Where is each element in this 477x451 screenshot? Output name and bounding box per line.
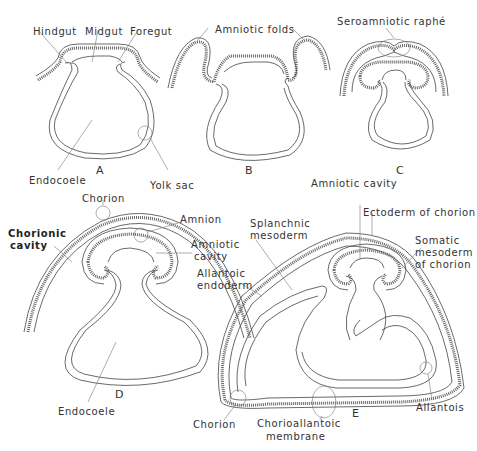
panel-label-c: C: [396, 165, 404, 176]
panel-label-b: B: [245, 165, 253, 176]
label-midgut: Midgut: [85, 26, 123, 37]
label-allantoic-endoderm-line1: Allantoic: [197, 268, 246, 279]
label-amniotic-cavity-e: Amniotic cavity: [311, 178, 397, 189]
label-chorion-d: Chorion: [82, 193, 125, 204]
label-somatic-mesoderm-line3: of chorion: [415, 259, 471, 270]
label-amniotic-cavity-d-line2: cavity: [194, 251, 228, 262]
label-ectoderm-of-chorion: Ectoderm of chorion: [363, 207, 476, 218]
label-chorioallantoic-membrane-line2: membrane: [266, 431, 326, 442]
label-chorionic-cavity-line2: cavity: [10, 240, 48, 251]
label-foregut: Foregut: [130, 26, 172, 37]
panel-a-drawing: [36, 30, 168, 170]
label-endocoele-d: Endocoele: [58, 406, 115, 417]
label-chorion-e: Chorion: [193, 419, 236, 430]
label-somatic-mesoderm-line2: mesoderm: [415, 247, 473, 258]
panel-b-drawing: [168, 28, 330, 160]
label-allantois: Allantois: [416, 402, 464, 413]
label-amniotic-folds: Amniotic folds: [215, 24, 295, 35]
label-amnion: Amnion: [180, 214, 222, 225]
diagram-drawing: [0, 0, 477, 451]
label-splanchnic-mesoderm-line1: Splanchnic: [250, 218, 310, 229]
label-yolk-sac: Yolk sac: [150, 180, 194, 191]
label-hindgut: Hindgut: [33, 26, 77, 37]
label-allantoic-endoderm-line2: endoderm: [197, 280, 253, 291]
label-endocoele-a: Endocoele: [29, 175, 86, 186]
label-seroamniotic-raphe: Seroamniotic raphé: [337, 16, 446, 27]
panel-label-d: D: [115, 389, 124, 400]
label-chorioallantoic-membrane-line1: Chorioallantoic: [257, 418, 341, 429]
label-splanchnic-mesoderm-line2: mesoderm: [250, 230, 308, 241]
panel-c-drawing: [340, 28, 448, 149]
embryo-membrane-diagram: Hindgut Midgut Foregut Endocoele Yolk sa…: [0, 0, 477, 451]
panel-label-a: A: [96, 165, 104, 176]
label-somatic-mesoderm-line1: Somatic: [415, 235, 460, 246]
label-chorionic-cavity-line1: Chorionic: [8, 228, 66, 239]
label-amniotic-cavity-d-line1: Amniotic: [191, 239, 240, 250]
panel-label-e: E: [352, 408, 360, 419]
